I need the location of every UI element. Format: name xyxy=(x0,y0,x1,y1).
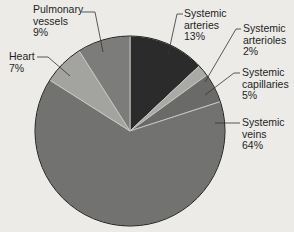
label-systemic-veins: Systemic veins 64% xyxy=(242,117,285,152)
label-line1: Systemic xyxy=(243,23,286,35)
label-percent: 64% xyxy=(242,140,285,152)
label-pulmonary-vessels: Pulmonary vessels 9% xyxy=(33,4,83,39)
pie-slices xyxy=(35,36,225,226)
label-line1: Pulmonary xyxy=(33,4,83,16)
label-percent: 5% xyxy=(242,90,289,102)
label-line1: Systemic xyxy=(242,67,289,79)
label-percent: 7% xyxy=(9,63,35,75)
label-line1: Systemic xyxy=(242,117,285,129)
label-percent: 13% xyxy=(184,31,227,43)
label-systemic-capillaries: Systemic capillaries 5% xyxy=(242,67,289,102)
label-heart: Heart 7% xyxy=(9,51,35,74)
label-line1: Heart xyxy=(9,51,35,63)
label-percent: 2% xyxy=(243,46,286,58)
label-systemic-arterioles: Systemic arterioles 2% xyxy=(243,23,286,58)
label-systemic-arteries: Systemic arteries 13% xyxy=(184,8,227,43)
label-percent: 9% xyxy=(33,27,83,39)
label-line1: Systemic xyxy=(184,8,227,20)
